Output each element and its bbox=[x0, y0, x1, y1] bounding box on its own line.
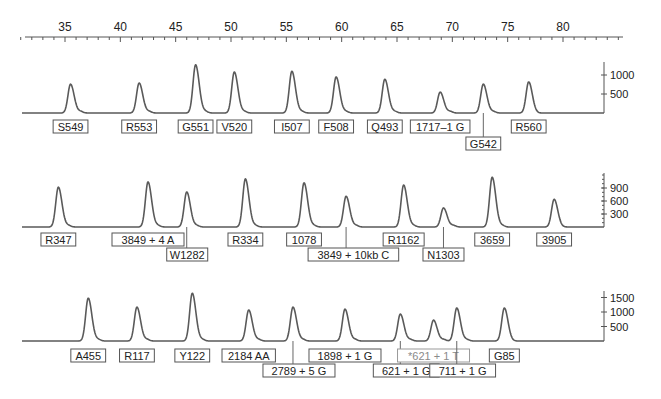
y-tick-label: 1500 bbox=[610, 292, 634, 304]
peak-label: G551 bbox=[178, 120, 213, 133]
peak-label: 2184 AA bbox=[222, 349, 275, 362]
x-tick-label: 55 bbox=[280, 20, 294, 34]
peak-label-text: 711 + 1 G bbox=[439, 365, 487, 377]
y-tick-label: 500 bbox=[610, 321, 628, 333]
peak-label-text: R334 bbox=[232, 234, 258, 246]
peak-label: 1898 + 1 G bbox=[309, 349, 381, 362]
peak-label-text: A455 bbox=[75, 350, 101, 362]
peak-label-text: R560 bbox=[516, 121, 542, 133]
peak-label-text: 3849 + 10kb C bbox=[317, 249, 389, 261]
peak-label: *621 + 1 T bbox=[398, 349, 470, 362]
peak-label: N1303 bbox=[423, 227, 464, 261]
peak-label-text: F508 bbox=[324, 121, 349, 133]
peak-label: I507 bbox=[274, 120, 309, 133]
y-tick-label: 300 bbox=[610, 208, 628, 220]
peak-label-text: 3905 bbox=[542, 234, 566, 246]
x-tick-label: 45 bbox=[169, 20, 183, 34]
peak-label: Y122 bbox=[175, 349, 210, 362]
signal-trace bbox=[22, 65, 604, 113]
peak-label-text: S549 bbox=[58, 121, 84, 133]
x-axis: 35404550556065707580 bbox=[21, 20, 623, 42]
peak-label-text: N1303 bbox=[427, 249, 459, 261]
peak-label-text: G85 bbox=[494, 350, 515, 362]
peak-label-text: 3849 + 4 A bbox=[122, 234, 176, 246]
peak-label-text: 1717–1 G bbox=[416, 121, 464, 133]
peak-label-text: 1078 bbox=[292, 234, 316, 246]
peak-label: 3905 bbox=[537, 233, 572, 246]
peak-label: F508 bbox=[319, 120, 354, 133]
peak-label: A455 bbox=[71, 349, 106, 362]
panel-1: 5001000S549R553G551V520I507F508Q4931717–… bbox=[22, 62, 634, 150]
x-tick-label: 40 bbox=[114, 20, 128, 34]
peak-label-text: I507 bbox=[281, 121, 302, 133]
peak-label: R560 bbox=[511, 120, 546, 133]
peak-label: R1162 bbox=[383, 233, 424, 246]
panel-2: 300600900R3473849 + 4 AW1282R33410783849… bbox=[22, 173, 628, 261]
peak-label-text: G542 bbox=[470, 138, 497, 150]
peak-label: 3659 bbox=[475, 233, 510, 246]
peak-label: V520 bbox=[217, 120, 252, 133]
peak-label-text: 621 + 1 G bbox=[382, 365, 431, 377]
y-tick-label: 900 bbox=[610, 182, 628, 194]
x-tick-label: 80 bbox=[556, 20, 570, 34]
peak-label: R553 bbox=[122, 120, 157, 133]
peak-label-text: W1282 bbox=[170, 249, 205, 261]
x-tick-label: 65 bbox=[390, 20, 404, 34]
x-tick-label: 60 bbox=[335, 20, 349, 34]
peak-label: G85 bbox=[489, 349, 519, 362]
x-tick-label: 70 bbox=[446, 20, 460, 34]
peak-label-text: Y122 bbox=[179, 350, 205, 362]
y-tick-label: 1000 bbox=[610, 69, 634, 81]
signal-trace bbox=[22, 177, 604, 227]
peak-label-text: R553 bbox=[126, 121, 152, 133]
signal-trace bbox=[22, 293, 604, 341]
electropherogram-chart: 35404550556065707580 5001000S549R553G551… bbox=[0, 0, 661, 399]
x-tick-label: 75 bbox=[501, 20, 515, 34]
panels: 5001000S549R553G551V520I507F508Q4931717–… bbox=[22, 62, 634, 377]
x-tick-label: 35 bbox=[58, 20, 72, 34]
peak-label: S549 bbox=[53, 120, 88, 133]
x-tick-label: 50 bbox=[224, 20, 238, 34]
peak-label: G542 bbox=[466, 113, 501, 150]
peak-label-text: G551 bbox=[182, 121, 209, 133]
peak-label-text: R347 bbox=[45, 234, 71, 246]
peak-label-text: R117 bbox=[124, 350, 149, 362]
peak-label-text: 2789 + 5 G bbox=[272, 365, 327, 377]
peak-label-text: *621 + 1 T bbox=[408, 350, 459, 362]
peak-label: R117 bbox=[120, 349, 155, 362]
y-tick-label: 500 bbox=[610, 88, 628, 100]
peak-label-text: 1898 + 1 G bbox=[318, 350, 373, 362]
y-tick-label: 600 bbox=[610, 195, 628, 207]
peak-label-text: V520 bbox=[221, 121, 247, 133]
peak-label: R347 bbox=[41, 233, 76, 246]
y-tick-label: 1000 bbox=[610, 306, 634, 318]
peak-label: R334 bbox=[228, 233, 263, 246]
peak-label-text: 2184 AA bbox=[228, 350, 270, 362]
peak-label: 1078 bbox=[287, 233, 322, 246]
peak-label-text: 3659 bbox=[480, 234, 504, 246]
peak-label: Q493 bbox=[367, 120, 402, 133]
peak-label-text: R1162 bbox=[388, 234, 420, 246]
panel-3: 50010001500A455R117Y1222184 AA2789 + 5 G… bbox=[22, 291, 634, 377]
peak-label-text: Q493 bbox=[371, 121, 398, 133]
peak-label: 3849 + 4 A bbox=[112, 233, 184, 246]
peak-label: 1717–1 G bbox=[410, 120, 470, 133]
